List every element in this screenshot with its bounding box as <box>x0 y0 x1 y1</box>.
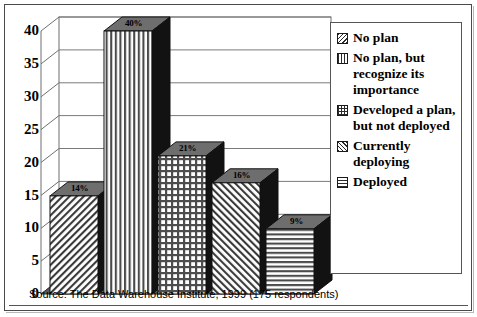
legend-item-currently-deploying[interactable]: Currently deploying <box>337 138 457 170</box>
bar-front-face <box>158 156 206 294</box>
plot-canvas <box>9 8 339 310</box>
legend-item-no-plan[interactable]: No plan <box>337 30 457 46</box>
y-axis-tick-labels: 40 35 30 25 20 15 10 5 0 <box>9 8 39 310</box>
legend-label-deployed: Deployed <box>353 174 407 190</box>
legend-swatch-horizontal-lines-icon <box>337 177 348 188</box>
bar-deployed[interactable] <box>266 215 332 294</box>
source-divider <box>9 305 468 306</box>
y-tick-25: 25 <box>13 122 39 137</box>
legend-swatch-diagonal-back-hatch-icon <box>337 33 348 44</box>
plot-area: 40 35 30 25 20 15 10 5 0 14% 40% 21% 16%… <box>9 8 339 310</box>
bar-label-developed-plan: 21% <box>179 143 196 153</box>
bar-front-face <box>212 183 260 294</box>
bar-front-face <box>104 31 152 294</box>
y-tick-30: 30 <box>13 89 39 104</box>
legend-swatch-vertical-lines-icon <box>337 53 348 64</box>
bar-front-face <box>266 229 314 294</box>
source-caption: Source: The Data Warehouse Institute, 19… <box>29 288 338 300</box>
legend-label-no-plan-recognize: No plan, but recognize its importance <box>353 50 457 98</box>
y-tick-5: 5 <box>13 253 39 268</box>
legend-item-deployed[interactable]: Deployed <box>337 174 457 190</box>
legend-label-no-plan: No plan <box>353 30 398 46</box>
chart-legend: No plan No plan, but recognize its impor… <box>330 22 462 274</box>
bar-label-currently-deploying: 16% <box>233 170 250 180</box>
bar-label-no-plan: 14% <box>71 183 88 193</box>
legend-item-developed-plan[interactable]: Developed a plan, but not deployed <box>337 102 457 134</box>
bar-front-face <box>50 196 98 294</box>
y-tick-10: 10 <box>13 220 39 235</box>
legend-swatch-diagonal-forward-hatch-icon <box>337 141 348 152</box>
legend-label-developed-plan: Developed a plan, but not deployed <box>353 102 457 134</box>
y-tick-15: 15 <box>13 188 39 203</box>
chart-figure: 40 35 30 25 20 15 10 5 0 14% 40% 21% 16%… <box>0 0 477 317</box>
legend-label-currently-deploying: Currently deploying <box>353 138 457 170</box>
legend-item-no-plan-recognize[interactable]: No plan, but recognize its importance <box>337 50 457 98</box>
bar-label-deployed: 9% <box>290 216 303 226</box>
bar-label-no-plan-recognize: 40% <box>125 18 142 28</box>
y-tick-20: 20 <box>13 155 39 170</box>
y-tick-35: 35 <box>13 56 39 71</box>
legend-swatch-grid-crosshatch-icon <box>337 105 348 116</box>
y-tick-40: 40 <box>13 23 39 38</box>
